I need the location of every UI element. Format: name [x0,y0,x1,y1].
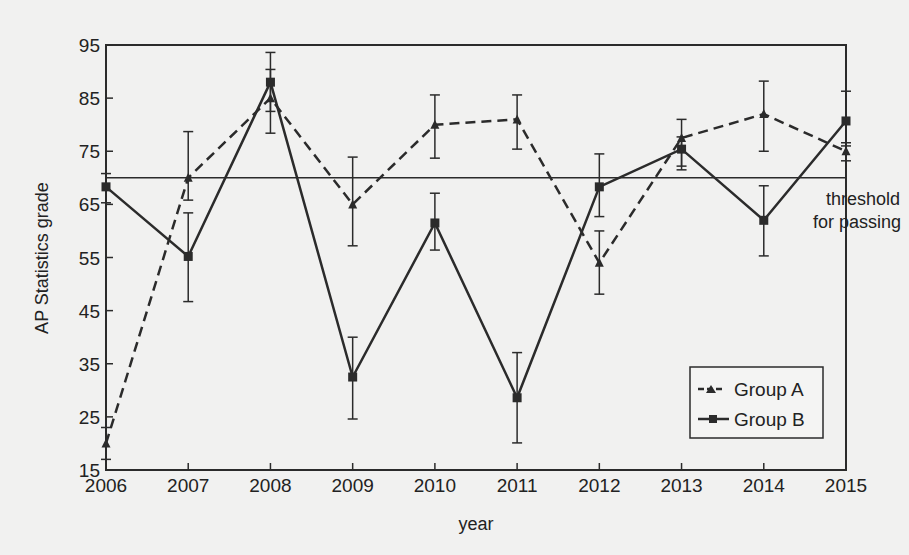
x-tick-label: 2006 [85,475,127,496]
x-axis-title: year [458,514,493,534]
threshold-label-line2: for passing [813,212,901,232]
x-tick-label: 2012 [578,475,620,496]
y-axis: 152535455565758595 [79,35,113,481]
x-axis: 2006200720082009201020112012201320142015 [85,463,867,496]
square-marker-icon [677,145,686,154]
square-marker-icon [266,78,275,87]
square-marker-icon [513,393,522,402]
triangle-marker-icon [102,438,111,447]
legend-square-marker-icon [709,415,717,423]
square-marker-icon [184,252,193,261]
y-tick-label: 65 [79,194,100,215]
x-tick-label: 2010 [414,475,456,496]
x-tick-label: 2007 [167,475,209,496]
square-marker-icon [430,218,439,227]
y-tick-label: 35 [79,354,100,375]
y-tick-label: 85 [79,88,100,109]
legend-label-group-a: Group A [734,379,804,400]
y-tick-label: 45 [79,301,100,322]
y-tick-label: 25 [79,407,100,428]
x-tick-label: 2009 [332,475,374,496]
square-marker-icon [595,182,604,191]
x-tick-label: 2015 [825,475,867,496]
legend: Group A Group B [690,367,823,438]
square-marker-icon [102,182,111,191]
square-marker-icon [348,373,357,382]
threshold-label-line1: threshold [826,189,900,209]
y-tick-label: 75 [79,141,100,162]
y-tick-label: 95 [79,35,100,56]
x-tick-label: 2011 [497,475,538,496]
x-tick-label: 2008 [249,475,291,496]
x-tick-label: 2013 [660,475,702,496]
line-chart: 152535455565758595 200620072008200920102… [0,0,909,555]
triangle-marker-icon [759,109,768,118]
legend-label-group-b: Group B [734,409,805,430]
square-marker-icon [842,116,851,125]
triangle-marker-icon [842,146,851,155]
y-axis-title: AP Statistics grade [32,182,52,334]
chart-container: 152535455565758595 200620072008200920102… [0,0,909,555]
series-line [106,82,846,398]
y-tick-label: 55 [79,248,100,269]
x-tick-label: 2014 [743,475,786,496]
square-marker-icon [759,216,768,225]
